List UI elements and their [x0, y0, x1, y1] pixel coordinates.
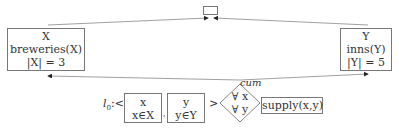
node-y-predicate: inns(Y) [341, 43, 391, 56]
tuple-item-y-var: y [168, 96, 204, 109]
top-node [203, 6, 218, 15]
node-x-predicate: breweries(X) [8, 43, 84, 56]
tuple-prefix: l0:< [103, 97, 124, 115]
node-x-var: X [8, 30, 84, 43]
tuple-item-y-constraint: y∈Y [168, 109, 204, 122]
tuple-close: > [209, 97, 218, 110]
node-x-cardinality: |X| = 3 [8, 56, 84, 69]
tuple-item-x-var: x [125, 96, 161, 109]
node-y: Y inns(Y) |Y| = 5 [340, 28, 392, 71]
tuple-item-y: y y∈Y [167, 93, 205, 123]
tuple-item-x-constraint: x∈X [125, 109, 161, 122]
quantifier-line2: ∀ y [229, 103, 251, 116]
relation-label: supply(x,y) [262, 99, 322, 112]
node-y-var: Y [341, 30, 391, 43]
quantifier-line1: ∀ x [229, 90, 251, 103]
edge-label-cum: cum [240, 76, 262, 89]
tuple-prefix-tail: :< [111, 97, 124, 110]
node-x: X breweries(X) |X| = 3 [7, 28, 85, 71]
tuple-separator: , [163, 107, 166, 120]
quantifier-text: ∀ x ∀ y [229, 90, 251, 116]
edge-cum-to-x [48, 76, 240, 80]
relation-node: supply(x,y) [261, 97, 323, 114]
edge-y-to-top [214, 18, 368, 25]
node-y-cardinality: |Y| = 5 [341, 56, 391, 69]
tuple-item-x: x x∈X [124, 93, 162, 123]
edge-x-to-top [48, 18, 208, 25]
